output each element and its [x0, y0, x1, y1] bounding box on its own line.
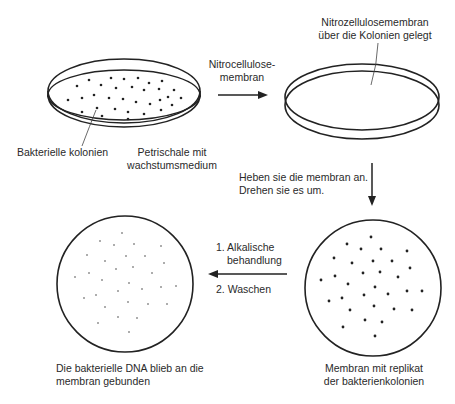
label-arrow1-line1: Nitrocellulose- [202, 58, 282, 71]
label-dna-bound: Die bakterielle DNA blieb an die membran… [56, 362, 204, 388]
label-lift-and-flip: Heben sie die membran an. Drehen sie es … [239, 171, 368, 197]
label-replica-line1: Membran mit replikat [316, 362, 432, 375]
label-bacterial-colonies: Bakterielle kolonien [17, 146, 108, 159]
dish-with-membrane [285, 64, 439, 139]
label-dna-line1: Die bakterielle DNA blieb an die [56, 362, 204, 375]
bacterial-colonies [67, 77, 183, 121]
arrow-left [208, 270, 287, 278]
membrane-replica [305, 220, 441, 356]
colonies-leader-line [82, 110, 96, 146]
label-replica: Membran mit replikat der bakterienkoloni… [316, 362, 432, 388]
label-membrane-line2: über die Kolonien gelegt [310, 29, 440, 42]
label-replica-line2: der bakterienkolonien [316, 375, 432, 388]
label-step1-line2: behandlung [216, 254, 282, 267]
label-membrane-line1: Nitrozellulosemembran [310, 16, 440, 29]
label-step1-line1: 1. Alkalische [216, 241, 282, 254]
label-petri-line2: wachstumsmedium [124, 159, 220, 172]
membrane-dna [57, 216, 193, 352]
label-step1: 1. Alkalische behandlung [216, 241, 282, 267]
petri-dish [48, 59, 200, 127]
arrow-down [368, 163, 376, 206]
arrow-right [218, 91, 268, 99]
label-arrow1-line2: membran [202, 71, 282, 84]
label-step2: 2. Waschen [216, 283, 271, 296]
label-petri-dish: Petrischale mit wachstumsmedium [124, 146, 220, 172]
label-lift-line2: Drehen sie es um. [239, 184, 368, 197]
label-membrane-over-colonies: Nitrozellulosemembran über die Kolonien … [310, 16, 440, 42]
label-dna-line2: membran gebunden [56, 375, 204, 388]
label-arrow-nitrocellulose: Nitrocellulose- membran [202, 58, 282, 84]
label-petri-line1: Petrischale mit [124, 146, 220, 159]
label-lift-line1: Heben sie die membran an. [239, 171, 368, 184]
